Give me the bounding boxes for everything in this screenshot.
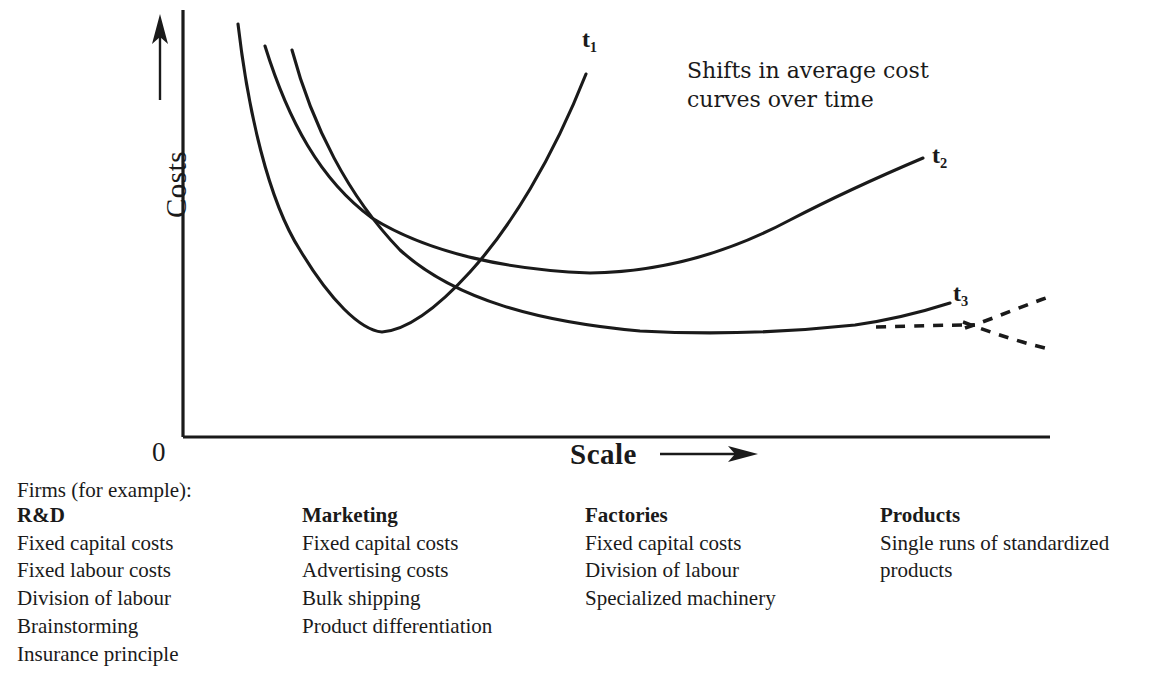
y-axis-label: Costs	[160, 105, 193, 265]
column-item: Division of labour	[585, 557, 875, 585]
column-heading: R&D	[17, 502, 297, 530]
column-item: Fixed labour costs	[17, 557, 297, 585]
curve-label-t3-text: t₃	[953, 280, 968, 306]
curve-label-t1: t₁	[582, 26, 597, 53]
cost-curve-figure: Costs Scale 0 t₁ t₂ t₃ Shifts in average…	[0, 0, 1161, 695]
column-item: Brainstorming	[17, 613, 297, 641]
y-axis-arrow-icon	[152, 14, 168, 100]
curve-label-t2-text: t₂	[932, 142, 947, 168]
column-item: Division of labour	[17, 585, 297, 613]
column-item: Bulk shipping	[302, 585, 582, 613]
column-item: Fixed capital costs	[585, 530, 875, 558]
column-item: Specialized machinery	[585, 585, 875, 613]
examples-column-marketing: Marketing Fixed capital costs Advertisin…	[302, 502, 582, 641]
x-axis-arrow-icon	[660, 446, 758, 462]
column-item: Fixed capital costs	[17, 530, 297, 558]
column-heading: Factories	[585, 502, 875, 530]
examples-column-rnd: R&D Fixed capital costs Fixed labour cos…	[17, 502, 297, 668]
curve-label-t3: t₃	[953, 280, 968, 307]
curve-t1	[238, 24, 586, 332]
origin-label: 0	[152, 437, 166, 468]
column-item: Advertising costs	[302, 557, 582, 585]
examples-column-factories: Factories Fixed capital costs Division o…	[585, 502, 875, 613]
examples-intro: Firms (for example):	[17, 478, 192, 503]
chart-annotation: Shifts in average cost curves over time	[687, 56, 987, 115]
x-axis-label: Scale	[570, 438, 637, 471]
column-heading: Products	[880, 502, 1155, 530]
curve-t3-dashed-stem	[876, 325, 975, 327]
examples-column-products: Products Single runs of standardized pro…	[880, 502, 1155, 585]
column-item: Insurance principle	[17, 641, 297, 669]
curve-label-t1-text: t₁	[582, 26, 597, 52]
curve-label-t2: t₂	[932, 142, 947, 169]
column-item: Fixed capital costs	[302, 530, 582, 558]
column-heading: Marketing	[302, 502, 582, 530]
curve-t3-dashed-branch-up	[965, 298, 1046, 328]
examples-block: Firms (for example): R&D Fixed capital c…	[0, 478, 1161, 695]
column-item: Product differentiation	[302, 613, 582, 641]
column-item: Single runs of standardized products	[880, 530, 1155, 585]
curve-t3-dashed-branch-down	[963, 322, 1049, 349]
